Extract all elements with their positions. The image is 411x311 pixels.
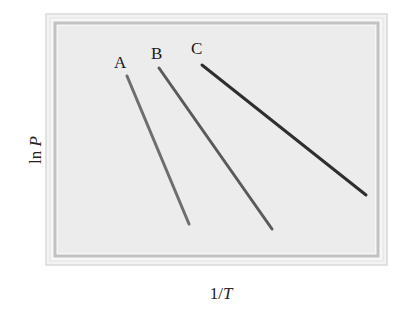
x-axis-label-prefix: 1/ bbox=[210, 284, 223, 303]
y-axis-label-prefix: ln bbox=[26, 146, 45, 163]
y-axis-label-var: P bbox=[26, 136, 45, 146]
plot-canvas bbox=[0, 0, 411, 311]
x-axis-label-var: T bbox=[223, 284, 232, 303]
x-axis-label: 1/T bbox=[196, 284, 246, 304]
y-axis-label: ln P bbox=[26, 130, 50, 170]
series-label-b: B bbox=[151, 45, 162, 62]
plot-area bbox=[58, 26, 375, 253]
series-label-c: C bbox=[191, 40, 202, 57]
chart-figure: A B C ln P 1/T bbox=[0, 0, 411, 311]
series-label-a: A bbox=[114, 54, 126, 71]
